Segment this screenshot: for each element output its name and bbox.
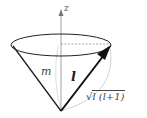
- magnitude-label: √l (l+1): [86, 92, 125, 102]
- z-axis-arrow-icon: [59, 9, 64, 16]
- z-axis-label: z: [64, 4, 69, 13]
- rim-arc: [56, 45, 61, 111]
- magnitude-expression: l (l+1): [92, 90, 124, 102]
- l-vector-label: l: [71, 70, 76, 83]
- m-label: m: [41, 66, 51, 77]
